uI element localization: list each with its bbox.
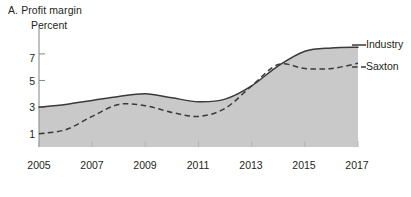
industry-area-fill [39,47,358,147]
chart-plot [0,0,411,197]
chart-figure: A. Profit margin Percent 7 5 3 1 2005 20… [0,0,411,197]
plot-area [39,28,366,147]
